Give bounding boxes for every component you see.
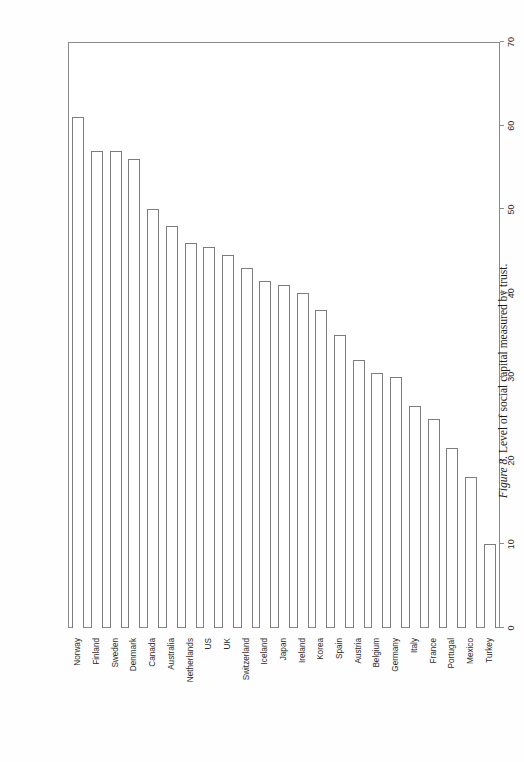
bar-row — [409, 42, 421, 628]
category-label-iceland: Iceland — [260, 634, 269, 762]
bar-spain — [334, 335, 346, 628]
bar-row — [465, 42, 477, 628]
category-label-norway: Norway — [73, 634, 82, 762]
bar-denmark — [128, 159, 140, 628]
bar-germany — [390, 377, 402, 628]
category-label-finland: Finland — [92, 634, 101, 762]
category-label-japan: Japan — [279, 634, 288, 762]
bar-row — [428, 42, 440, 628]
category-label-australia: Australia — [167, 634, 176, 762]
category-label-ireland: Ireland — [298, 634, 307, 762]
bar-switzerland — [241, 268, 253, 628]
bar-row — [297, 42, 309, 628]
bar-austria — [353, 360, 365, 628]
category-label-netherlands: Netherlands — [186, 634, 195, 762]
bar-row — [203, 42, 215, 628]
bar-row — [166, 42, 178, 628]
bar-row — [446, 42, 458, 628]
category-label-germany: Germany — [391, 634, 400, 762]
figure-caption-text: Level of social capital measured by trus… — [497, 264, 509, 456]
bar-row — [241, 42, 253, 628]
bar-belgium — [371, 373, 383, 628]
bar-row — [353, 42, 365, 628]
bar-canada — [147, 209, 159, 628]
bar-row — [390, 42, 402, 628]
category-label-mexico: Mexico — [466, 634, 475, 762]
bar-italy — [409, 406, 421, 628]
bar-mexico — [465, 477, 477, 628]
category-label-sweden: Sweden — [111, 634, 120, 762]
category-label-italy: Italy — [410, 634, 419, 762]
category-label-switzerland: Switzerland — [242, 634, 251, 762]
plot-wrapper: NorwayFinlandSwedenDenmarkCanadaAustrali… — [0, 0, 524, 762]
bar-norway — [72, 117, 84, 628]
bar-row — [259, 42, 271, 628]
category-label-denmark: Denmark — [129, 634, 138, 762]
bar-netherlands — [185, 243, 197, 628]
bar-iceland — [259, 281, 271, 628]
bar-uk — [222, 255, 234, 628]
bar-row — [315, 42, 327, 628]
figure-caption: Figure 8. Level of social capital measur… — [490, 0, 516, 762]
category-label-us: US — [204, 634, 213, 762]
bar-row — [371, 42, 383, 628]
bar-ireland — [297, 293, 309, 628]
bar-row — [334, 42, 346, 628]
category-label-austria: Austria — [354, 634, 363, 762]
category-label-france: France — [429, 634, 438, 762]
bar-france — [428, 419, 440, 628]
bar-row — [185, 42, 197, 628]
bar-row — [222, 42, 234, 628]
bars-area — [69, 42, 499, 628]
category-label-canada: Canada — [148, 634, 157, 762]
bar-us — [203, 247, 215, 628]
figure-page: NorwayFinlandSwedenDenmarkCanadaAustrali… — [0, 0, 524, 762]
bar-row — [147, 42, 159, 628]
bar-row — [91, 42, 103, 628]
bar-row — [110, 42, 122, 628]
bar-finland — [91, 151, 103, 628]
bar-japan — [278, 285, 290, 628]
category-label-belgium: Belgium — [372, 634, 381, 762]
bar-row — [128, 42, 140, 628]
bar-sweden — [110, 151, 122, 628]
figure-caption-prefix: Figure 8. — [497, 456, 509, 498]
bar-row — [278, 42, 290, 628]
category-label-korea: Korea — [316, 634, 325, 762]
bar-australia — [166, 226, 178, 628]
bar-row — [72, 42, 84, 628]
bar-korea — [315, 310, 327, 628]
rotated-chart-container: NorwayFinlandSwedenDenmarkCanadaAustrali… — [0, 0, 524, 762]
bar-portugal — [446, 448, 458, 628]
category-label-spain: Spain — [335, 634, 344, 762]
category-label-portugal: Portugal — [447, 634, 456, 762]
category-label-uk: UK — [223, 634, 232, 762]
